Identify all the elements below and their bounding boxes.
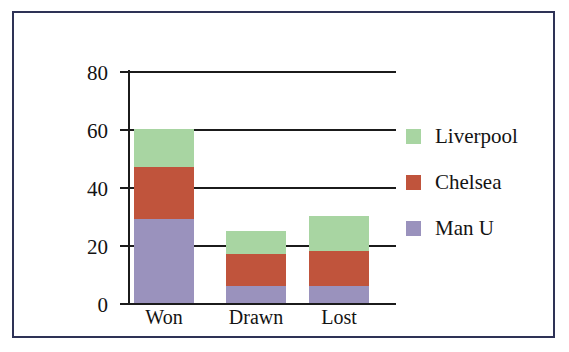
bar-drawn[interactable]: Drawn: [226, 231, 286, 303]
y-tick-label-40: 40: [87, 179, 108, 200]
y-tick-label-0: 0: [98, 295, 109, 316]
bar-segment-manu[interactable]: [309, 286, 369, 303]
y-tick-label-60: 60: [87, 121, 108, 142]
legend-swatch-manu: [406, 221, 421, 236]
bar-segment-chelsea[interactable]: [134, 167, 194, 219]
x-tick-label-won: Won: [145, 307, 182, 327]
chart-page: 80 60 40 20 0 Won: [0, 0, 569, 352]
figure-frame: 80 60 40 20 0 Won: [12, 11, 555, 338]
legend-item-liverpool[interactable]: Liverpool: [406, 113, 518, 159]
bar-segment-chelsea[interactable]: [226, 254, 286, 286]
bar-segment-manu[interactable]: [134, 219, 194, 303]
y-tick-label-80: 80: [87, 63, 108, 84]
legend-label-chelsea: Chelsea: [435, 172, 501, 193]
x-tick-label-lost: Lost: [321, 307, 357, 327]
gridline-0: 0: [120, 303, 396, 305]
bar-segment-chelsea[interactable]: [309, 251, 369, 286]
bar-segment-liverpool[interactable]: [134, 129, 194, 167]
bar-lost[interactable]: Lost: [309, 216, 369, 303]
legend-swatch-chelsea: [406, 175, 421, 190]
legend-label-manu: Man U: [435, 218, 494, 239]
bar-segment-liverpool[interactable]: [309, 216, 369, 251]
bar-won[interactable]: Won: [134, 129, 194, 303]
bar-segment-liverpool[interactable]: [226, 231, 286, 254]
legend-label-liverpool: Liverpool: [435, 126, 518, 147]
plot-area: 80 60 40 20 0 Won: [128, 71, 396, 303]
legend-swatch-liverpool: [406, 129, 421, 144]
legend-item-chelsea[interactable]: Chelsea: [406, 159, 518, 205]
x-tick-label-drawn: Drawn: [229, 307, 283, 327]
y-tick-label-20: 20: [87, 237, 108, 258]
legend: Liverpool Chelsea Man U: [406, 113, 518, 251]
bar-segment-manu[interactable]: [226, 286, 286, 303]
gridline-80: 80: [120, 71, 396, 73]
legend-item-manu[interactable]: Man U: [406, 205, 518, 251]
